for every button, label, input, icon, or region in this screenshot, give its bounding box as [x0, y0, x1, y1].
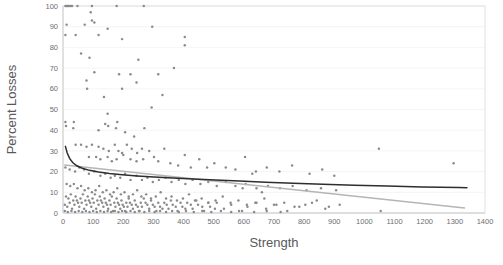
data-point [100, 199, 102, 201]
data-point [97, 203, 99, 205]
y-tick-label: 30 [50, 147, 58, 156]
y-tick-label: 60 [50, 84, 58, 93]
data-point [122, 154, 124, 156]
x-tick-label: 200 [117, 217, 130, 226]
data-point [184, 183, 186, 185]
data-point [79, 197, 81, 199]
data-point [170, 195, 172, 197]
data-point [95, 208, 97, 210]
data-point [88, 156, 90, 158]
data-point [80, 52, 82, 54]
data-point [157, 160, 159, 162]
data-point [273, 203, 275, 205]
data-point [83, 208, 85, 210]
y-tick-label: 40 [50, 126, 58, 135]
x-axis-title: Strength [249, 235, 298, 250]
data-point [255, 170, 257, 172]
data-point [106, 112, 108, 114]
data-point [117, 150, 119, 152]
data-point [117, 211, 119, 213]
data-point [102, 206, 104, 208]
data-point [121, 203, 123, 205]
data-point [83, 23, 85, 25]
data-point [159, 191, 161, 193]
data-point [200, 197, 202, 199]
data-point [206, 166, 208, 168]
x-axis-tick-labels: 0100200300400500600700800900100011001200… [61, 217, 493, 226]
data-point [88, 172, 90, 174]
data-point [143, 5, 145, 7]
data-point [91, 19, 93, 21]
data-point [138, 210, 140, 212]
data-point [76, 5, 78, 7]
data-point [118, 73, 120, 75]
data-point [335, 189, 337, 191]
data-point [286, 210, 288, 212]
data-point [148, 210, 150, 212]
data-point [87, 187, 89, 189]
data-point [141, 179, 143, 181]
x-tick-label: 1100 [386, 217, 402, 226]
data-point [182, 197, 184, 199]
data-point [190, 203, 192, 205]
data-point [95, 156, 97, 158]
data-point [88, 211, 90, 213]
data-point [176, 199, 178, 201]
data-point [121, 88, 123, 90]
data-point [230, 203, 232, 205]
data-point [188, 193, 190, 195]
data-point [320, 187, 322, 189]
data-point [88, 57, 90, 59]
data-point [165, 197, 167, 199]
data-point [109, 193, 111, 195]
data-point [117, 201, 119, 203]
data-point [125, 201, 127, 203]
data-point [251, 172, 253, 174]
data-point [214, 208, 216, 210]
y-tick-label: 10 [50, 188, 58, 197]
data-point [161, 94, 163, 96]
data-point [246, 206, 248, 208]
data-point [109, 177, 111, 179]
data-point [97, 146, 99, 148]
data-point [115, 5, 117, 7]
data-point [106, 156, 108, 158]
data-point [70, 193, 72, 195]
x-tick-label: 700 [268, 217, 281, 226]
data-point [94, 189, 96, 191]
data-point [78, 206, 80, 208]
data-point [86, 88, 88, 90]
data-point [74, 195, 76, 197]
data-point [77, 201, 79, 203]
data-point [110, 211, 112, 213]
data-point [115, 197, 117, 199]
x-tick-label: 1200 [416, 217, 433, 226]
data-point [99, 210, 101, 212]
data-point [169, 162, 171, 164]
x-tick-label: 100 [87, 217, 100, 226]
data-point [195, 199, 197, 201]
data-point [279, 211, 281, 213]
data-point [106, 28, 108, 30]
data-point [65, 195, 67, 197]
data-point [93, 21, 95, 23]
y-tick-label: 20 [50, 167, 58, 176]
data-point [141, 206, 143, 208]
data-point [111, 160, 113, 162]
data-point [210, 211, 212, 213]
x-tick-label: 300 [147, 217, 160, 226]
data-point [141, 148, 143, 150]
data-point [220, 210, 222, 212]
data-point [65, 183, 67, 185]
scatter-chart: 0100200300400500600700800900100011001200… [0, 0, 503, 265]
data-point [73, 183, 75, 185]
data-point [124, 131, 126, 133]
data-point [321, 168, 323, 170]
data-point [291, 185, 293, 187]
data-point [115, 127, 117, 129]
data-point [234, 168, 236, 170]
data-point [89, 11, 91, 13]
data-point [167, 208, 169, 210]
data-point [97, 34, 99, 36]
data-point [114, 210, 116, 212]
